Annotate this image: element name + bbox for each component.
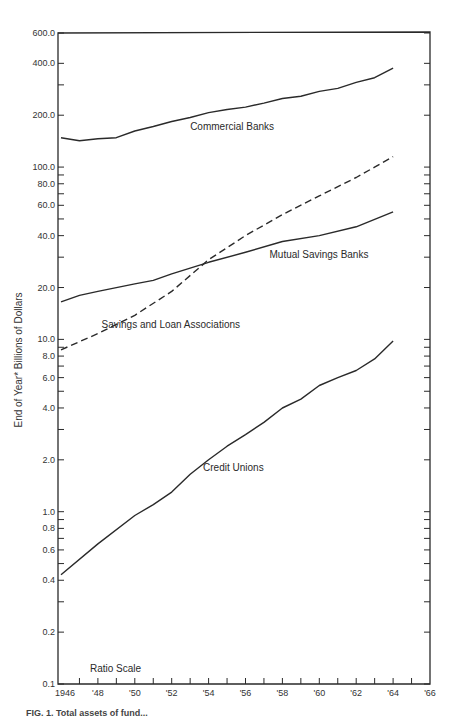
y-tick-label: 0.1 xyxy=(42,679,55,689)
y-tick-label: 6.0 xyxy=(42,373,55,383)
x-tick-label: '66 xyxy=(424,688,436,698)
x-tick-label: '58 xyxy=(277,688,289,698)
y-axis-title: End of Year* Billions of Dollars xyxy=(13,292,24,427)
chart-canvas: 600.0400.0200.0100.080.060.040.020.010.0… xyxy=(0,0,453,720)
y-tick-label: 400.0 xyxy=(32,58,55,68)
y-tick-label: 20.0 xyxy=(37,283,55,293)
series-label-credit-unions: Credit Unions xyxy=(203,462,264,473)
y-tick-label: 80.0 xyxy=(37,179,55,189)
y-tick-label: 60.0 xyxy=(37,200,55,210)
series-label-savings-and-loan-associations: Savings and Loan Associations xyxy=(102,319,240,330)
y-tick-label: 4.0 xyxy=(42,403,55,413)
x-tick-label: '64 xyxy=(387,688,399,698)
y-tick-label: 200.0 xyxy=(32,110,55,120)
y-tick-label: 0.2 xyxy=(42,627,55,637)
y-tick-label: 2.0 xyxy=(42,455,55,465)
x-tick-label: 1946 xyxy=(55,688,75,698)
figure-caption: FIG. 1. Total assets of fund... xyxy=(26,708,148,718)
y-tick-label: 100.0 xyxy=(32,162,55,172)
series-label-mutual-savings-banks: Mutual Savings Banks xyxy=(269,249,368,260)
y-tick-label: 40.0 xyxy=(37,231,55,241)
series-credit-unions-line xyxy=(61,341,393,575)
series-label-commercial-banks: Commercial Banks xyxy=(190,121,274,132)
y-tick-label: 0.6 xyxy=(42,545,55,555)
x-tick-label: '56 xyxy=(240,688,252,698)
x-tick-label: '48 xyxy=(92,688,104,698)
x-tick-label: '60 xyxy=(313,688,325,698)
y-tick-label: 1.0 xyxy=(42,507,55,517)
y-tick-label: 10.0 xyxy=(37,334,55,344)
y-tick-label: 0.4 xyxy=(42,575,55,585)
x-tick-label: '50 xyxy=(129,688,141,698)
ratio-scale-note: Ratio Scale xyxy=(90,663,142,674)
x-tick-label: '62 xyxy=(350,688,362,698)
x-tick-label: '52 xyxy=(166,688,178,698)
series-labels: Commercial BanksSavings and Loan Associa… xyxy=(102,121,369,474)
y-tick-label: 8.0 xyxy=(42,351,55,361)
x-tick-label: '54 xyxy=(203,688,215,698)
y-tick-label: 0.8 xyxy=(42,523,55,533)
y-tick-label: 600.0 xyxy=(32,28,55,38)
x-axis: 1946'48'50'52'54'56'58'60'62'64'66 xyxy=(55,678,436,698)
